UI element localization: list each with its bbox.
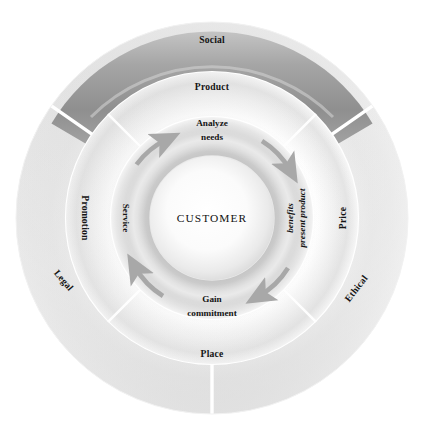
sales-cycle-label-benefits-line1: present product [297, 188, 307, 248]
customer-core-label: CUSTOMER [177, 212, 248, 224]
sales-cycle-label-analyze-line1: Analyze [196, 118, 228, 128]
sales-cycle-label-service: Service [121, 204, 131, 233]
marketing-mix-label-price: Price [337, 206, 348, 229]
sales-cycle-label-commitment-line2: commitment [187, 308, 237, 318]
customer-marketing-wheel: Social Ethical Legal Product Price Place… [0, 0, 424, 436]
sales-cycle-label-analyze-line2: needs [201, 132, 223, 142]
customer-core: CUSTOMER [150, 156, 274, 280]
environment-label-social: Social [199, 34, 225, 45]
marketing-mix-label-product: Product [195, 81, 230, 92]
marketing-mix-label-promotion: Promotion [80, 195, 91, 241]
diagram-canvas: Social Ethical Legal Product Price Place… [0, 0, 424, 436]
sales-cycle-label-benefits-line2: benefits [285, 203, 295, 233]
marketing-mix-label-place: Place [201, 348, 224, 359]
sales-cycle-label-commitment-line1: Gain [202, 294, 221, 304]
